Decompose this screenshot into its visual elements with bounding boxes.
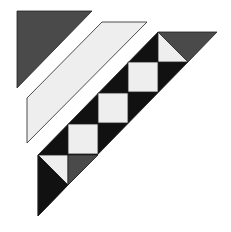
quilt-diagram [0,0,231,232]
square-1 [128,62,158,92]
square-3 [68,124,98,154]
square-2 [98,93,128,123]
